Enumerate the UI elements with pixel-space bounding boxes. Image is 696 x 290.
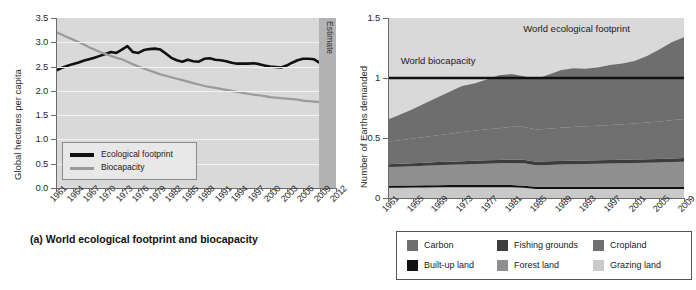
y-tick — [51, 164, 56, 165]
y-tick — [51, 18, 56, 19]
y-tick — [51, 67, 56, 68]
legend-swatch-grazing-land — [593, 260, 604, 271]
legend-swatch-built-up-land — [407, 260, 418, 271]
x-tick-label: 1961 — [48, 183, 69, 204]
legend-swatch-carbon — [407, 240, 418, 251]
y-tick-label: 0 — [352, 192, 380, 203]
legend-label-carbon: Carbon — [424, 240, 454, 250]
y-tick — [51, 139, 56, 140]
gridline — [56, 42, 336, 43]
y-tick-label: 3.5 — [16, 12, 48, 23]
x-tick-label: 1961 — [380, 193, 401, 214]
y-tick-label: 1 — [352, 72, 380, 83]
y-tick-label: 0.0 — [16, 182, 48, 193]
y-tick — [51, 115, 56, 116]
figure-caption-a: (a) World ecological footprint and bioca… — [30, 233, 258, 245]
chart-b-y-axis — [388, 18, 389, 199]
y-tick-label: 0.5 — [16, 158, 48, 169]
y-tick — [383, 138, 388, 139]
chart-a-y-axis — [56, 18, 57, 189]
chart-b-series-svg — [388, 18, 684, 198]
y-tick-label: 1.5 — [352, 12, 380, 23]
chart-b-legend: Carbon Fishing grounds Cropland Built-up… — [396, 231, 692, 280]
legend-swatch-forest-land — [497, 260, 508, 271]
y-tick-label: 0.5 — [352, 132, 380, 143]
chart-b-plot-area: World ecological footprint World biocapa… — [388, 18, 684, 198]
y-tick-label: 2.0 — [16, 85, 48, 96]
y-tick — [383, 78, 388, 79]
legend-label-forest-land: Forest land — [514, 260, 559, 270]
chart-b-annotation-biocapacity: World biocapacity — [401, 55, 476, 66]
estimate-band: Estimate — [319, 18, 336, 188]
y-tick-label: 3.0 — [16, 36, 48, 47]
legend-swatch-fishing-grounds — [497, 240, 508, 251]
y-tick — [51, 42, 56, 43]
chart-b-y-axis-title: Number of Earths demanded — [358, 66, 369, 188]
chart-b-panel: Number of Earths demanded World ecologic… — [352, 0, 696, 290]
chart-a-panel: Global hectares per capita Estimate 0.00… — [0, 0, 350, 290]
legend-swatch-cropland — [593, 240, 604, 251]
legend-label-built-up-land: Built-up land — [424, 260, 474, 270]
y-tick — [383, 18, 388, 19]
y-tick-label: 1.0 — [16, 133, 48, 144]
gridline — [56, 139, 336, 140]
gridline — [56, 115, 336, 116]
gridline — [56, 91, 336, 92]
legend-label-biocapacity: Biocapacity — [101, 162, 144, 172]
legend-label-grazing-land: Grazing land — [610, 260, 661, 270]
gridline — [56, 67, 336, 68]
y-tick-label: 1.5 — [16, 109, 48, 120]
y-tick-label: 2.5 — [16, 61, 48, 72]
legend-swatch-biocapacity — [70, 167, 94, 170]
legend-label-fishing-grounds: Fishing grounds — [514, 240, 578, 250]
y-tick — [51, 91, 56, 92]
legend-swatch-ecological-footprint — [70, 153, 94, 157]
chart-a-legend: Ecological footprint Biocapacity — [62, 142, 197, 180]
legend-label-ecological-footprint: Ecological footprint — [101, 149, 173, 159]
chart-b-annotation-footprint: World ecological footprint — [523, 23, 630, 34]
figure-world-footprint: Global hectares per capita Estimate 0.00… — [0, 0, 696, 290]
estimate-band-label: Estimate — [320, 21, 335, 54]
legend-label-cropland: Cropland — [610, 240, 647, 250]
